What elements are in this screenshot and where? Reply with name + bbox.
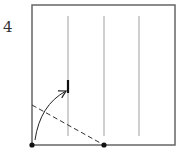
reference-point-corner <box>29 142 34 147</box>
reference-point-crease <box>101 142 106 147</box>
paper-square <box>32 5 175 145</box>
origami-diagram <box>0 0 176 157</box>
